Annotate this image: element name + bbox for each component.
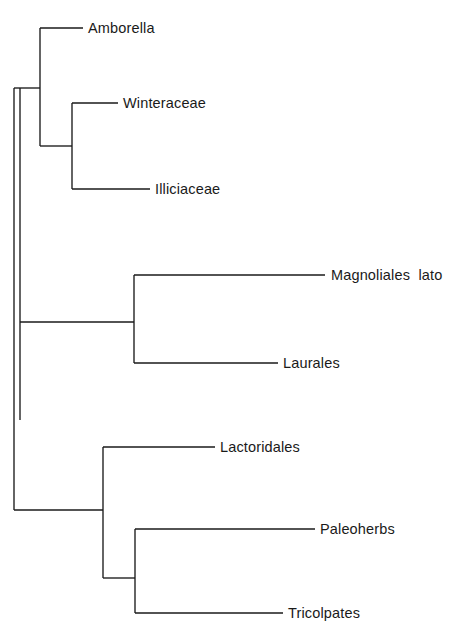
taxon-label-magnoliales-lato: Magnoliales lato	[331, 268, 442, 283]
taxon-label-tricolpates: Tricolpates	[288, 606, 360, 621]
phylogenetic-tree-figure: AmborellaWinteraceaeIlliciaceaeMagnolial…	[0, 0, 457, 630]
taxon-label-paleoherbs: Paleoherbs	[320, 522, 395, 537]
taxon-label-winteraceae: Winteraceae	[123, 96, 206, 111]
taxon-label-amborella: Amborella	[88, 21, 155, 36]
taxon-label-illiciaceae: Illiciaceae	[155, 182, 220, 197]
taxon-label-lactoridales: Lactoridales	[220, 440, 300, 455]
taxon-label-laurales: Laurales	[283, 356, 340, 371]
branch-layer	[14, 28, 325, 613]
